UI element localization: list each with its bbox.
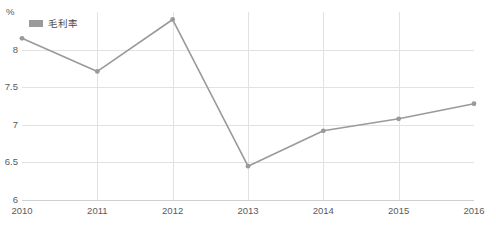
y-tick-label-7.5: 7.5 [0, 82, 18, 92]
x-tick-label-2013: 2013 [237, 206, 258, 216]
plot-area [22, 12, 474, 200]
line-chart: % 毛利率 66.577.58 201020112012201320142015… [0, 0, 496, 228]
x-tick-label-2015: 2015 [388, 206, 409, 216]
y-tick-label-7: 7 [0, 120, 18, 130]
gridline-x-2012 [173, 12, 174, 200]
x-tick-label-2012: 2012 [162, 206, 183, 216]
gridline-x-2013 [248, 12, 249, 200]
x-tick-label-2011: 2011 [87, 206, 107, 216]
gridline-x-2014 [323, 12, 324, 200]
x-tick-label-2010: 2010 [11, 206, 32, 216]
x-tick-label-2016: 2016 [463, 206, 484, 216]
y-tick-label-6: 6 [0, 195, 18, 205]
gridline-y-6 [22, 200, 474, 201]
gridline-x-2015 [399, 12, 400, 200]
y-tick-label-8: 8 [0, 45, 18, 55]
y-axis-unit-label: % [6, 7, 14, 17]
gridline-x-2011 [97, 12, 98, 200]
x-tick-label-2014: 2014 [313, 206, 334, 216]
y-tick-label-6.5: 6.5 [0, 158, 18, 168]
